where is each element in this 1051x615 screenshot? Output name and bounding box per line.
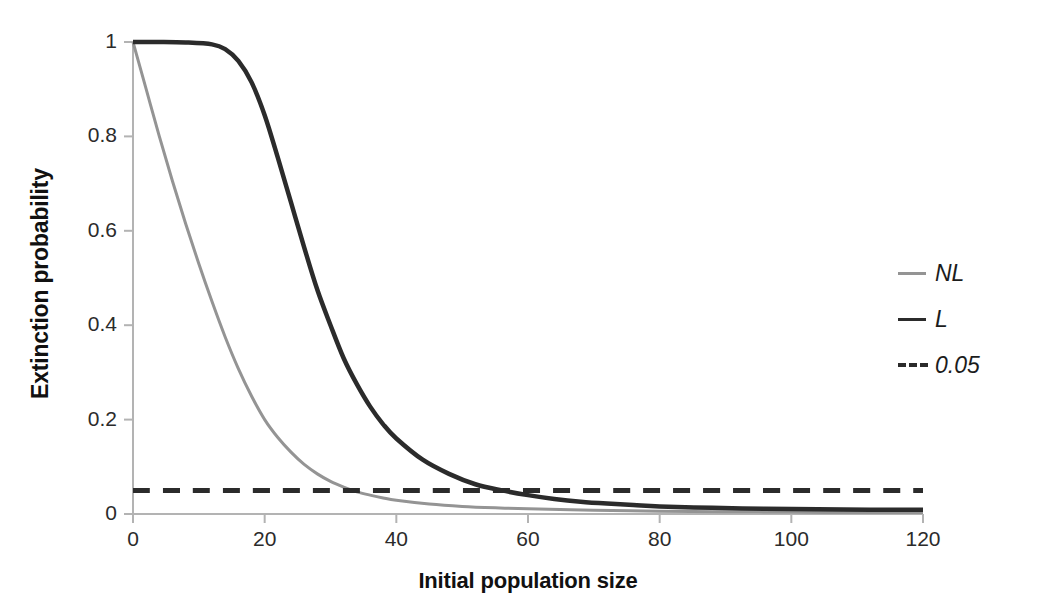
legend-swatch-icon [898, 358, 926, 372]
y-tick-label: 0.8 [37, 123, 117, 147]
chart-legend: NLL0.05 [898, 250, 1048, 388]
y-tick-label: 0.6 [37, 218, 117, 242]
y-tick-label: 1 [37, 29, 117, 53]
y-axis-label-container: Extinction probability [0, 0, 70, 560]
legend-item-l[interactable]: L [898, 296, 1048, 342]
y-tick-label: 0 [37, 501, 117, 525]
chart-figure: Extinction probability Initial populatio… [0, 0, 1051, 615]
data-series-group [133, 42, 923, 513]
legend-swatch-icon [898, 312, 926, 326]
x-tick-label: 40 [356, 527, 436, 551]
chart-plot-area [0, 0, 1051, 615]
legend-item-0-05[interactable]: 0.05 [898, 342, 1048, 388]
x-tick-label: 20 [225, 527, 305, 551]
series-line-l [133, 42, 923, 510]
legend-item-nl[interactable]: NL [898, 250, 1048, 296]
x-tick-label: 100 [751, 527, 831, 551]
legend-swatch-icon [898, 266, 926, 280]
series-line-nl [133, 42, 923, 513]
legend-label: NL [935, 260, 964, 287]
x-axis-ticks [133, 514, 923, 523]
legend-label: 0.05 [935, 352, 980, 379]
legend-label: L [935, 306, 948, 333]
x-tick-label: 0 [93, 527, 173, 551]
x-tick-label: 60 [488, 527, 568, 551]
y-tick-label: 0.2 [37, 407, 117, 431]
y-tick-label: 0.4 [37, 312, 117, 336]
x-tick-label: 80 [620, 527, 700, 551]
x-axis-label: Initial population size [133, 568, 923, 594]
x-tick-label: 120 [883, 527, 963, 551]
y-axis-ticks [124, 42, 133, 514]
